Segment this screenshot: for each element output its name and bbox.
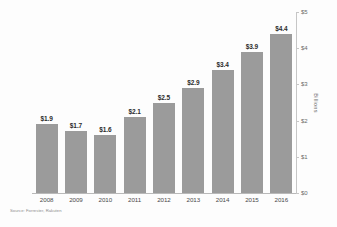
y-axis-line xyxy=(296,12,297,194)
x-axis-tick-label: 2012 xyxy=(149,196,178,203)
bar-value-label: $3.4 xyxy=(216,61,228,70)
bar xyxy=(241,52,263,193)
bar-wrap: $1.6 xyxy=(91,135,120,193)
bar-column: $1.6 xyxy=(91,12,120,193)
bar-column: $2.9 xyxy=(179,12,208,193)
y-axis-tick-label: $2 xyxy=(301,118,308,124)
bar-value-label: $1.6 xyxy=(99,126,111,135)
bar xyxy=(182,88,204,193)
bar xyxy=(65,131,87,193)
y-axis-tick-mark xyxy=(296,84,299,85)
bar-value-label: $1.9 xyxy=(41,115,53,124)
x-axis-tick-label: 2008 xyxy=(32,196,61,203)
bar-wrap: $1.9 xyxy=(32,124,61,193)
bar-column: $2.1 xyxy=(120,12,149,193)
bar xyxy=(124,117,146,193)
y-axis-tick-mark xyxy=(296,157,299,158)
y-axis-tick-label: $0 xyxy=(301,190,308,196)
x-axis-labels: 200820092010201120122013201420152016 xyxy=(32,196,296,210)
bar-value-label: $2.9 xyxy=(187,79,199,88)
y-axis-title: Billions xyxy=(313,93,319,112)
y-axis-tick-label: $4 xyxy=(301,45,308,51)
bar-wrap: $2.9 xyxy=(179,88,208,193)
plot-area: $1.9$1.7$1.6$2.1$2.5$2.9$3.4$3.9$4.4 xyxy=(32,12,296,193)
bar-wrap: $3.9 xyxy=(237,52,266,193)
bar-wrap: $2.5 xyxy=(149,103,178,194)
bar xyxy=(36,124,58,193)
bar-column: $4.4 xyxy=(267,12,296,193)
bar-value-label: $2.5 xyxy=(158,94,170,103)
x-axis-line xyxy=(32,193,297,194)
bar-wrap: $1.7 xyxy=(61,131,90,193)
y-axis-tick-label: $3 xyxy=(301,81,308,87)
bar xyxy=(270,34,292,193)
y-axis-tick-mark xyxy=(296,193,299,194)
y-axis-tick-label: $5 xyxy=(301,9,308,15)
x-axis-tick-label: 2009 xyxy=(61,196,90,203)
bar-series: $1.9$1.7$1.6$2.1$2.5$2.9$3.4$3.9$4.4 xyxy=(32,12,296,193)
y-axis-tick-label: $1 xyxy=(301,154,308,160)
x-axis-tick-label: 2013 xyxy=(179,196,208,203)
y-axis-tick-mark xyxy=(296,12,299,13)
source-note: Source: Forrester, Rakuten xyxy=(10,208,62,213)
bar-value-label: $4.4 xyxy=(275,25,287,34)
x-axis-tick-label: 2016 xyxy=(267,196,296,203)
y-axis-tick-mark xyxy=(296,121,299,122)
bar-wrap: $2.1 xyxy=(120,117,149,193)
x-axis-tick-label: 2011 xyxy=(120,196,149,203)
x-axis-tick-label: 2014 xyxy=(208,196,237,203)
bar-column: $2.5 xyxy=(149,12,178,193)
bar-value-label: $1.7 xyxy=(70,122,82,131)
bar xyxy=(153,103,175,194)
bar-value-label: $2.1 xyxy=(129,108,141,117)
bar-wrap: $4.4 xyxy=(267,34,296,193)
bar-column: $3.9 xyxy=(237,12,266,193)
bar xyxy=(94,135,116,193)
bar-column: $3.4 xyxy=(208,12,237,193)
x-axis-tick-label: 2010 xyxy=(91,196,120,203)
x-axis-tick-label: 2015 xyxy=(237,196,266,203)
bar xyxy=(212,70,234,193)
bar-column: $1.9 xyxy=(32,12,61,193)
bar-wrap: $3.4 xyxy=(208,70,237,193)
bar-chart: $1.9$1.7$1.6$2.1$2.5$2.9$3.4$3.9$4.4 $0$… xyxy=(0,0,337,227)
y-axis-tick-mark xyxy=(296,48,299,49)
bar-column: $1.7 xyxy=(61,12,90,193)
bar-value-label: $3.9 xyxy=(246,43,258,52)
